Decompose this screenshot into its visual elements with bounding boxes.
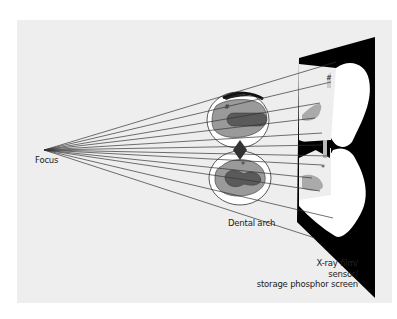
focus-label: Focus <box>35 155 58 166</box>
upper-hash-marker: # <box>224 103 230 111</box>
film-star-marker: * <box>321 164 325 173</box>
film-label-line-3: storage phosphor screen <box>257 279 358 290</box>
film-hash-marker: # <box>326 74 332 82</box>
dental-arch-label: Dental arch <box>228 218 275 229</box>
film-label-line-2: sensor/ <box>257 269 358 280</box>
xray-beams <box>44 62 336 238</box>
lower-star-marker: * <box>241 161 245 170</box>
film-label: X-ray film/ sensor/ storage phosphor scr… <box>257 258 358 290</box>
film-label-line-1: X-ray film/ <box>257 258 358 269</box>
